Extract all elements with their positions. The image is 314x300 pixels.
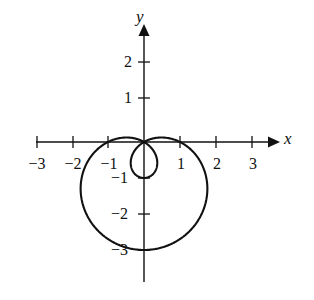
x-tick-label-minus2: −2 — [58, 156, 88, 172]
y-tick-label-minus2: −2 — [94, 206, 128, 222]
y-tick-label-minus1: −1 — [94, 170, 128, 186]
y-tick-label-1: 1 — [98, 90, 132, 106]
plot-canvas — [0, 0, 314, 300]
x-tick-label-1: 1 — [166, 156, 196, 172]
y-axis — [139, 24, 150, 282]
y-tick-label-2: 2 — [98, 54, 132, 70]
polar-plot-figure: y x −3 −2 −1 1 2 3 2 1 −1 −2 −3 — [0, 0, 314, 300]
x-axis-arrowhead — [268, 137, 280, 148]
y-axis-label: y — [136, 8, 144, 25]
y-tick-label-minus3: −3 — [94, 242, 128, 258]
x-tick-label-minus3: −3 — [22, 156, 52, 172]
x-tick-label-3: 3 — [238, 156, 268, 172]
x-axis-label: x — [284, 130, 292, 147]
x-tick-label-2: 2 — [202, 156, 232, 172]
